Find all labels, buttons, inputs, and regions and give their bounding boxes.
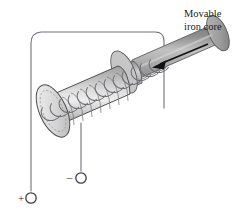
- core-label-line-1: Movable: [184, 8, 222, 19]
- solenoid-cylinder: [29, 66, 130, 142]
- figure-root: + – Movable iron core: [0, 0, 241, 215]
- core-label-line-2: iron core: [184, 21, 222, 32]
- positive-terminal-sign: +: [18, 192, 24, 204]
- negative-terminal-sign: –: [66, 171, 73, 183]
- terminals: + –: [18, 171, 86, 204]
- positive-terminal-node[interactable]: [26, 193, 36, 203]
- negative-terminal-node[interactable]: [76, 173, 86, 183]
- solenoid-diagram: + – Movable iron core: [0, 0, 241, 215]
